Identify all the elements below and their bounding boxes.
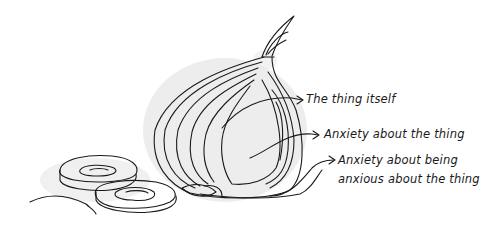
onion-drawing bbox=[0, 0, 492, 231]
label-the-thing-itself: The thing itself bbox=[306, 92, 396, 106]
label-anxiety-about-being-line1: Anxiety about being bbox=[338, 153, 458, 167]
onion-illustration: The thing itself Anxiety about the thing… bbox=[0, 0, 492, 231]
label-anxiety-about-the-thing: Anxiety about the thing bbox=[324, 127, 465, 141]
shadow-wash bbox=[40, 50, 307, 202]
label-anxiety-about-being-line2: anxious about the thing bbox=[338, 172, 480, 186]
